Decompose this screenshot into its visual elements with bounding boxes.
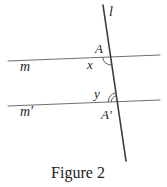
line-m — [8, 55, 160, 61]
label-point-a: A — [94, 41, 103, 56]
geometry-figure: l m m′ A x y A′ Figure 2 — [0, 0, 167, 187]
label-line-l: l — [109, 4, 113, 19]
angle-y-arc-inner — [111, 96, 116, 102]
parallel-lines-transversal-diagram: l m m′ A x y A′ Figure 2 — [0, 0, 167, 187]
label-line-m: m — [20, 59, 30, 74]
angle-y-arc-outer — [108, 93, 116, 102]
label-angle-x: x — [86, 57, 93, 72]
label-point-a-prime: A′ — [100, 107, 112, 122]
label-angle-y: y — [92, 86, 100, 101]
line-l-transversal — [103, 5, 126, 161]
figure-caption: Figure 2 — [51, 164, 105, 182]
label-line-m-prime: m′ — [20, 104, 34, 119]
